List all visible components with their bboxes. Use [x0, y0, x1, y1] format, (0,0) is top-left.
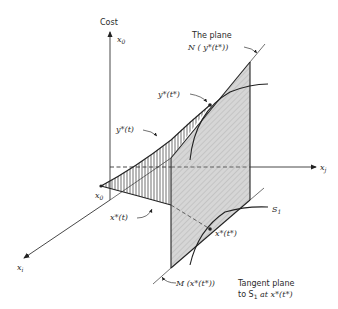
plane-n-label: N ( y*(t*)): [187, 43, 228, 52]
x-star-t-label: x*(t): [110, 213, 128, 222]
m-plane-label: M (x*(t*)): [175, 279, 215, 288]
xj-axis-label: xj: [320, 163, 327, 174]
x0-point: [99, 184, 102, 187]
x-star-point: [208, 227, 212, 231]
xi-axis-label: xi: [17, 263, 24, 273]
diagram-canvas: Cost x0 xi xj The plane N ( y*(t*)) y*(t…: [0, 0, 338, 309]
tangent-plane-line2: to S1 at x*(t*): [238, 290, 293, 300]
y-star-point: [208, 103, 212, 107]
plane-title: The plane: [191, 31, 232, 40]
tangent-plane-line1: Tangent plane: [237, 279, 295, 288]
x0-label: x0: [95, 191, 104, 201]
y-star-t-label: y*(t): [115, 125, 134, 134]
x-star-t-star-label: x*(t*): [215, 229, 237, 238]
x0-axis-label: x0: [117, 35, 126, 45]
s1-label: S1: [272, 205, 281, 215]
xi-axis: [24, 200, 110, 258]
cost-axis-title: Cost: [100, 18, 118, 27]
y-star-t-star-label: y*(t*): [157, 90, 180, 99]
plane-n-hatch: [171, 62, 250, 268]
